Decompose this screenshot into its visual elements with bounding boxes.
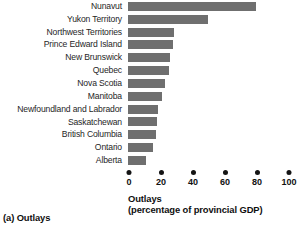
bar — [128, 53, 170, 62]
tick-dot-marker — [126, 170, 131, 175]
bar-track — [125, 154, 300, 167]
figure-outlays-bar-chart: NunavutYukon TerritoryNorthwest Territor… — [0, 0, 300, 228]
x-axis-tick: 60 — [220, 170, 230, 187]
tick-label: 0 — [126, 177, 131, 187]
bar-row: Yukon Territory — [0, 13, 300, 26]
bar — [128, 143, 153, 152]
tick-label: 40 — [188, 177, 198, 187]
x-axis-tick: 40 — [188, 170, 198, 187]
category-label: Yukon Territory — [0, 15, 125, 24]
bar — [128, 156, 146, 165]
category-label: Quebec — [0, 66, 125, 75]
bar-track — [125, 116, 300, 129]
bar-track — [125, 90, 300, 103]
bar — [128, 117, 157, 126]
bar-row: Ontario — [0, 141, 300, 154]
tick-dot-marker — [254, 170, 259, 175]
bar — [128, 40, 173, 49]
tick-label: 100 — [281, 177, 296, 187]
bar — [128, 66, 169, 75]
bar-row: Nova Scotia — [0, 77, 300, 90]
tick-label: 80 — [252, 177, 262, 187]
category-label: Ontario — [0, 143, 125, 152]
bar — [128, 92, 162, 101]
bar-row: Quebec — [0, 64, 300, 77]
category-label: Nunavut — [0, 2, 125, 11]
bar-track — [125, 0, 300, 13]
figure-caption: (a) Outlays — [3, 212, 50, 223]
bar-row: Alberta — [0, 154, 300, 167]
category-label: Nova Scotia — [0, 79, 125, 88]
x-axis-tick: 80 — [252, 170, 262, 187]
category-label: British Columbia — [0, 130, 125, 139]
category-label: Northwest Territories — [0, 28, 125, 37]
bar-track — [125, 26, 300, 39]
bar — [128, 79, 165, 88]
bar-track — [125, 51, 300, 64]
plot-area: NunavutYukon TerritoryNorthwest Territor… — [0, 0, 300, 172]
tick-label: 20 — [156, 177, 166, 187]
bar-track — [125, 64, 300, 77]
x-axis-tick: 0 — [126, 170, 131, 187]
bar-track — [125, 103, 300, 116]
bar-row: British Columbia — [0, 128, 300, 141]
category-label: Saskatchewan — [0, 118, 125, 127]
category-label: Newfoundland and Labrador — [0, 105, 125, 114]
bar — [128, 15, 208, 24]
bar-track — [125, 39, 300, 52]
bar-row: New Brunswick — [0, 51, 300, 64]
bar — [128, 2, 256, 11]
x-axis-tick: 20 — [156, 170, 166, 187]
category-label: Alberta — [0, 156, 125, 165]
bar-track — [125, 77, 300, 90]
bar-row: Northwest Territories — [0, 26, 300, 39]
x-axis-title-line-1: Outlays — [128, 193, 300, 204]
bar-track — [125, 13, 300, 26]
bar-row: Manitoba — [0, 90, 300, 103]
bar-track — [125, 141, 300, 154]
bar-row: Nunavut — [0, 0, 300, 13]
category-label: Prince Edward Island — [0, 40, 125, 49]
tick-dot-marker — [287, 170, 292, 175]
category-label: New Brunswick — [0, 53, 125, 62]
bar-row: Saskatchewan — [0, 116, 300, 129]
bar-track — [125, 128, 300, 141]
tick-dot-marker — [158, 170, 163, 175]
x-axis-title-line-2: (percentage of provincial GDP) — [128, 204, 300, 215]
bar — [128, 28, 174, 37]
x-axis-title: Outlays (percentage of provincial GDP) — [128, 193, 300, 215]
bar-row: Newfoundland and Labrador — [0, 103, 300, 116]
bar-row: Prince Edward Island — [0, 39, 300, 52]
bar — [128, 105, 158, 114]
bar — [128, 130, 156, 139]
tick-label: 60 — [220, 177, 230, 187]
tick-dot-marker — [222, 170, 227, 175]
x-axis-tick: 100 — [281, 170, 296, 187]
tick-dot-marker — [190, 170, 195, 175]
category-label: Manitoba — [0, 92, 125, 101]
